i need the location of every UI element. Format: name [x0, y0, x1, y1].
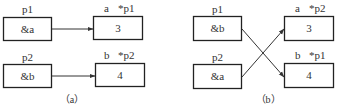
value-p2: &a [211, 70, 225, 82]
diagram-a: p1 &a a *p1 3 p2 &b b *p2 4 （a） [4, 2, 145, 105]
alias-b: *p2 [118, 49, 135, 61]
caption-a: （a） [60, 94, 84, 105]
label-p2: p2 [212, 51, 223, 63]
alias-b: *p1 [309, 49, 326, 61]
alias-a: *p1 [118, 2, 135, 14]
value-b: 4 [306, 69, 312, 81]
label-p1: p1 [212, 3, 223, 15]
caption-b: （b） [256, 94, 281, 105]
label-b: b [104, 49, 110, 61]
value-p2: &b [20, 70, 35, 82]
value-a: 3 [115, 22, 121, 34]
value-a: 3 [306, 22, 312, 34]
label-p2: p2 [22, 51, 33, 63]
label-p1: p1 [22, 3, 33, 15]
label-a: a [295, 2, 300, 14]
pointer-swap-diagram: p1 &a a *p1 3 p2 &b b *p2 4 （a） p1 &b p2… [0, 0, 337, 107]
alias-a: *p2 [309, 2, 326, 14]
diagram-b: p1 &b p2 &a a *p2 3 b *p1 4 （b） [194, 2, 334, 105]
value-p1: &a [21, 23, 35, 35]
value-b: 4 [117, 69, 123, 81]
value-p1: &b [210, 22, 225, 34]
label-b: b [295, 49, 301, 61]
label-a: a [104, 2, 109, 14]
